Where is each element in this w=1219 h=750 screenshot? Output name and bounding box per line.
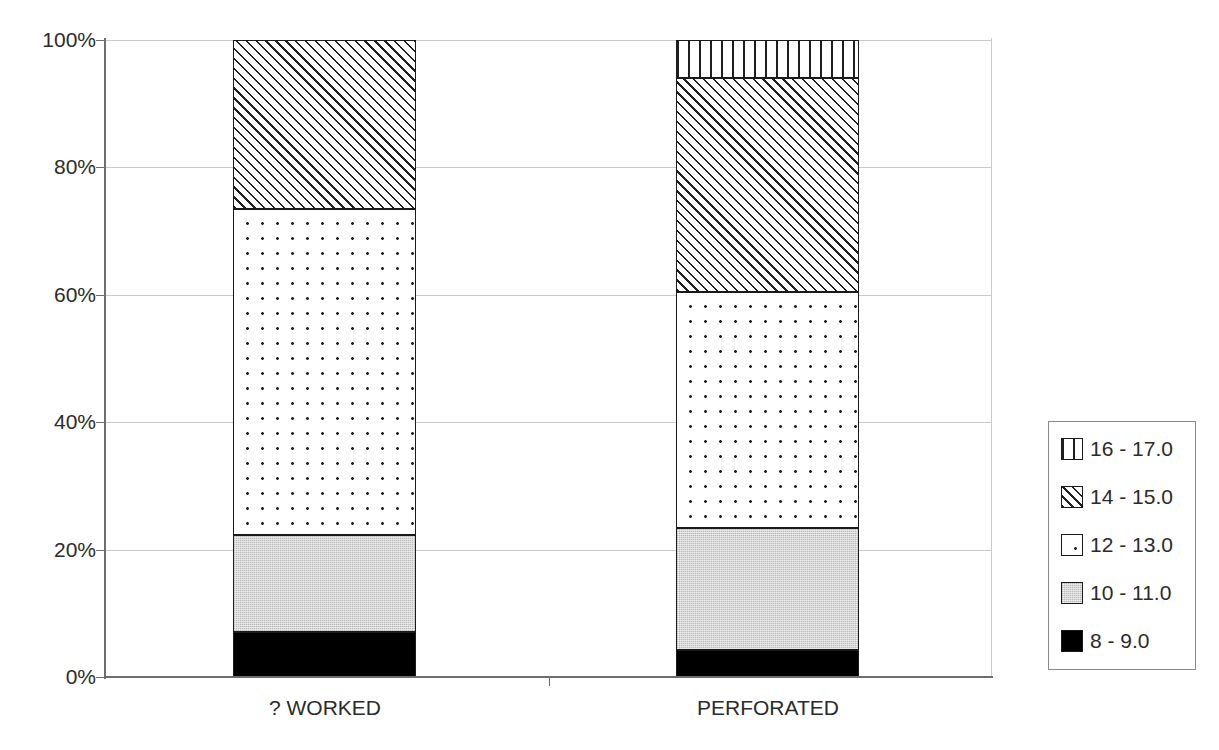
legend-item-10-11[interactable]: 10 - 11.0 (1061, 581, 1171, 605)
segment-12-13[interactable] (676, 292, 859, 528)
y-axis-tick-label: 20% (18, 539, 96, 560)
segment-12-13[interactable] (233, 209, 416, 535)
x-axis-label-worked: ? WORKED (181, 697, 469, 719)
legend-item-8-9[interactable]: 8 - 9.0 (1061, 629, 1150, 653)
legend-label: 14 - 15.0 (1090, 486, 1173, 508)
segment-14-15[interactable] (233, 40, 416, 209)
y-axis-tick-label: 40% (18, 411, 96, 432)
segment-16-17[interactable] (676, 40, 859, 78)
segment-10-11[interactable] (676, 528, 859, 650)
legend: 16 - 17.0 14 - 15.0 12 - 13.0 10 - 11.0 … (1048, 421, 1196, 670)
y-axis-tick-label: 100% (18, 29, 96, 50)
legend-item-12-13[interactable]: 12 - 13.0 (1061, 533, 1173, 557)
legend-swatch-diagonal-hatch-icon (1061, 486, 1083, 508)
stacked-bar-chart: 100% 80% 60% 40% 20% 0% (0, 0, 1219, 750)
segment-8-9[interactable] (233, 632, 416, 677)
bar-perforated[interactable] (676, 40, 859, 677)
legend-swatch-vertical-lines-icon (1061, 438, 1083, 460)
x-axis-label-perforated: PERFORATED (624, 697, 912, 719)
plot-right-border (991, 38, 992, 678)
legend-label: 10 - 11.0 (1090, 582, 1171, 604)
legend-label: 8 - 9.0 (1090, 630, 1150, 652)
y-axis-tick-label: 80% (18, 156, 96, 177)
legend-label: 16 - 17.0 (1090, 438, 1173, 460)
y-axis-tick-label: 0% (18, 666, 96, 687)
segment-8-9[interactable] (676, 650, 859, 677)
legend-swatch-black-icon (1061, 630, 1083, 652)
legend-item-16-17[interactable]: 16 - 17.0 (1061, 437, 1173, 461)
legend-label: 12 - 13.0 (1090, 534, 1173, 556)
y-axis-tick-label: 60% (18, 284, 96, 305)
x-axis-category-separator (549, 677, 550, 686)
segment-10-11[interactable] (233, 535, 416, 632)
legend-item-14-15[interactable]: 14 - 15.0 (1061, 485, 1173, 509)
legend-swatch-gray-icon (1061, 582, 1083, 604)
legend-swatch-dots-icon (1061, 534, 1083, 556)
plot-area (105, 40, 992, 677)
segment-14-15[interactable] (676, 78, 859, 292)
y-axis-line (104, 38, 106, 679)
bar-worked[interactable] (233, 40, 416, 677)
